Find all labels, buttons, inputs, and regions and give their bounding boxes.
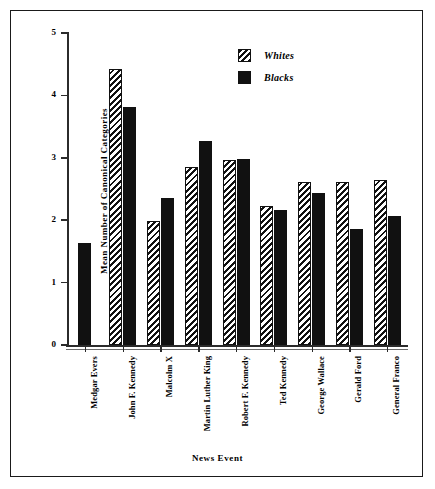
x-axis-tick — [160, 346, 161, 352]
y-axis-tick-label: 2 — [34, 215, 56, 224]
bar-whites — [336, 182, 349, 345]
bar-blacks — [388, 216, 401, 345]
bar-whites — [109, 69, 122, 345]
bar-blacks — [237, 159, 250, 345]
x-axis-category-label: Robert F. Kennedy — [240, 356, 250, 427]
y-axis-tick-label: 3 — [34, 153, 56, 162]
legend-label-whites: Whites — [264, 50, 294, 61]
bar-whites — [185, 167, 198, 345]
legend-item-whites: Whites — [238, 44, 294, 66]
y-axis-tick-label: 1 — [34, 278, 56, 287]
legend-item-blacks: Blacks — [238, 66, 294, 88]
legend-swatch-blacks-icon — [238, 71, 251, 84]
x-axis-tick — [274, 346, 275, 352]
x-axis-tick — [123, 346, 124, 352]
bar-blacks — [78, 243, 91, 345]
bar-blacks — [199, 141, 212, 345]
bar-blacks — [312, 193, 325, 345]
bar-blacks — [161, 198, 174, 345]
x-axis-tick — [312, 346, 313, 352]
y-axis-title: Mean Number of Canonical Categories — [99, 108, 109, 274]
x-axis-tick — [198, 346, 199, 352]
plot-area — [67, 33, 407, 345]
bar-whites — [147, 221, 160, 345]
x-axis-category-label: Gerald Ford — [353, 356, 363, 403]
x-axis-tick — [236, 346, 237, 352]
x-axis-category-label: Malcolm X — [164, 356, 174, 397]
x-axis-category-label: General Franco — [391, 356, 401, 415]
x-axis-tick — [349, 346, 350, 352]
bar-whites — [374, 180, 387, 345]
legend-swatch-whites-icon — [238, 49, 251, 62]
bar-blacks — [274, 210, 287, 345]
x-axis-category-label: George Wallace — [316, 356, 326, 415]
x-axis-category-label: John F. Kennedy — [127, 356, 137, 419]
x-axis-category-label: Ted Kennedy — [278, 356, 288, 405]
x-axis-tick — [85, 346, 86, 352]
x-axis-title: News Event — [0, 453, 435, 463]
bar-blacks — [123, 107, 136, 345]
chart-figure: 012345 Medgar EversJohn F. KennedyMalcol… — [0, 0, 435, 489]
y-axis-tick-label: 0 — [34, 340, 56, 349]
bar-blacks — [350, 229, 363, 345]
y-axis-tick-label: 5 — [34, 28, 56, 37]
bar-whites — [223, 160, 236, 345]
y-axis-tick-label: 4 — [34, 90, 56, 99]
legend-label-blacks: Blacks — [264, 72, 294, 83]
bar-whites — [260, 206, 273, 345]
chart-legend: Whites Blacks — [238, 44, 294, 88]
bar-whites — [298, 182, 311, 345]
x-axis-category-label: Martin Luther King — [202, 356, 212, 431]
x-axis-category-label: Medgar Evers — [89, 356, 99, 409]
x-axis-tick — [387, 346, 388, 352]
